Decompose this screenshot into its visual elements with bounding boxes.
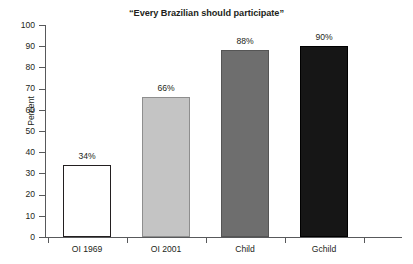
x-category-label: Child: [205, 245, 285, 254]
bar-value-label: 34%: [57, 152, 117, 161]
bar-gchild: [300, 46, 348, 237]
y-tick-label: 40: [3, 148, 35, 157]
chart-title: “Every Brazilian should participate”: [0, 8, 413, 18]
x-axis-line: [45, 237, 402, 238]
y-tick-label: 90: [3, 42, 35, 51]
y-tick-label: 60: [3, 106, 35, 115]
y-tick-label: 20: [3, 190, 35, 199]
bar-chart: “Every Brazilian should participate” Per…: [0, 0, 413, 264]
y-tick-label: 70: [3, 84, 35, 93]
x-tick-mark: [48, 238, 49, 243]
bar-child: [221, 50, 269, 237]
bar-value-label: 90%: [294, 33, 354, 42]
bar-value-label: 88%: [215, 37, 275, 46]
y-tick-label: 100: [3, 21, 35, 30]
x-tick-mark: [285, 238, 286, 243]
bar-value-label: 66%: [136, 84, 196, 93]
y-tick-label: 80: [3, 63, 35, 72]
x-category-label: OI 2001: [126, 245, 206, 254]
x-category-label: Gchild: [284, 245, 364, 254]
y-tick-mark: [39, 237, 45, 238]
x-category-label: OI 1969: [47, 245, 127, 254]
x-tick-mark: [127, 238, 128, 243]
bar-oi-2001: [142, 97, 190, 237]
plot-area: [45, 25, 400, 237]
x-tick-mark: [364, 238, 365, 243]
y-tick-label: 10: [3, 212, 35, 221]
y-tick-label: 0: [3, 233, 35, 242]
y-tick-label: 30: [3, 169, 35, 178]
y-tick-label: 50: [3, 127, 35, 136]
bar-oi-1969: [63, 165, 111, 237]
x-tick-mark: [206, 238, 207, 243]
